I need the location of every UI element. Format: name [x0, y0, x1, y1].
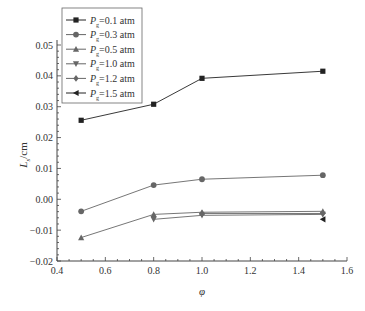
y-tick-label: 0.04: [36, 70, 54, 81]
y-tick-label: 0.03: [36, 101, 54, 112]
y-tick-label: 0.00: [36, 194, 54, 205]
y-axis-title: Ls/cm: [17, 142, 32, 169]
y-tick-label: −0.01: [30, 225, 53, 236]
triangle-left-marker-icon: [320, 216, 326, 222]
y-tick-label: −0.02: [30, 256, 53, 267]
circle-marker-icon: [199, 176, 205, 182]
square-marker-icon: [320, 69, 325, 74]
legend: Pg=0.1 atmPg=0.3 atmPg=0.5 atmPg=1.0 atm…: [62, 8, 142, 103]
y-axis-title-unit: /cm: [17, 142, 29, 159]
y-axis-title-main: L: [17, 162, 29, 169]
x-tick-label: 1.6: [341, 265, 354, 276]
y-tick-label: 0.01: [36, 163, 54, 174]
x-tick-label: 0.8: [147, 265, 160, 276]
x-tick-label: 0.6: [99, 265, 112, 276]
x-axis-title: φ: [199, 285, 205, 297]
square-marker-icon: [73, 17, 78, 22]
x-tick-label: 0.4: [51, 265, 64, 276]
circle-marker-icon: [151, 182, 157, 188]
line-chart: 0.40.60.81.01.21.41.6−0.02−0.010.000.010…: [0, 0, 365, 311]
y-tick-label: 0.05: [36, 40, 54, 51]
square-marker-icon: [199, 76, 204, 81]
x-tick-label: 1.4: [292, 265, 305, 276]
x-tick-label: 1.2: [244, 265, 257, 276]
square-marker-icon: [79, 118, 84, 123]
x-tick-label: 1.0: [196, 265, 209, 276]
circle-marker-icon: [78, 208, 84, 214]
y-tick-label: 0.02: [36, 132, 54, 143]
series-1: [78, 172, 325, 214]
circle-marker-icon: [320, 172, 326, 178]
series-5: [320, 216, 326, 222]
series-line: [154, 214, 323, 219]
square-marker-icon: [151, 102, 156, 107]
circle-marker-icon: [73, 32, 79, 38]
